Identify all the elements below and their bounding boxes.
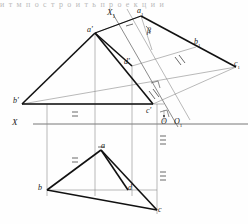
edge-a-a1-aux [95, 16, 141, 33]
label-beta-angle: β [147, 27, 151, 35]
tick-mark [149, 91, 155, 99]
label-ground-line-x: X [12, 118, 18, 127]
plan-projection-outline [47, 150, 157, 210]
tick-mark [126, 24, 133, 26]
edge-a-b-plan [47, 150, 101, 190]
label-c1-aux-sub: 1 [238, 65, 240, 70]
label-origin-o1-sub: 1 [180, 123, 182, 128]
label-a-front: a' [87, 26, 93, 34]
label-b-plan: b [38, 184, 42, 192]
label-b-front: b' [13, 97, 19, 105]
tick-mark [179, 55, 185, 63]
ray-d-to-aux [132, 47, 196, 66]
label-b1-aux-sub: 1 [198, 43, 200, 48]
label-d-front: d' [124, 58, 130, 66]
tick-mark [175, 57, 181, 65]
equal-length-ticks [72, 24, 185, 180]
label-d-plan: d [128, 184, 132, 192]
label-origin-o1: O1 [174, 118, 182, 129]
label-b1-aux: b1 [194, 38, 200, 49]
label-a1-aux: a1 [137, 7, 143, 18]
label-aux-axis-x1-sub: 1 [113, 13, 116, 19]
edge-a-d-plan [101, 150, 128, 190]
label-c-front: c' [146, 107, 151, 115]
drawing-canvas: и т м п о с т р о и т ь п р о е к ц и и [0, 0, 248, 224]
label-origin-o: O [161, 118, 167, 126]
right-angle-marks [151, 81, 169, 117]
label-c-plan: c [158, 206, 162, 214]
label-a1-aux-sub: 1 [141, 12, 143, 17]
label-c1-aux: c1 [234, 60, 240, 71]
frontal-projection-outline [22, 33, 153, 104]
label-aux-axis-x1: X1 [107, 8, 115, 19]
label-a-plan: a [101, 142, 105, 150]
ray-c-to-aux [153, 67, 236, 104]
